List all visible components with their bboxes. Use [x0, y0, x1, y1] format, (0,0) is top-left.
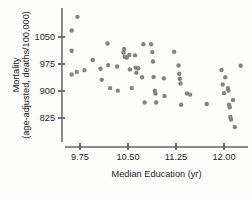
data-point: [115, 64, 119, 68]
data-point: [238, 64, 242, 68]
data-point: [75, 15, 79, 19]
data-point: [105, 41, 109, 45]
data-point: [154, 100, 158, 104]
data-point: [162, 94, 166, 98]
data-point: [153, 91, 157, 95]
data-point: [149, 42, 153, 46]
y-axis-title-line2: (age-adjusted, deaths/100,000): [21, 11, 31, 139]
y-axis-tick-label: 900: [40, 86, 55, 96]
x-axis-tick-label: 11.25: [165, 152, 187, 162]
data-point: [177, 72, 181, 76]
data-point: [151, 75, 155, 79]
data-point: [106, 63, 110, 67]
data-point: [140, 75, 144, 79]
y-axis-title-line1: Mortality: [11, 57, 21, 92]
data-point: [142, 100, 146, 104]
data-point: [69, 48, 73, 52]
y-axis-tick-label: 825: [40, 113, 55, 123]
data-point: [122, 47, 126, 51]
data-point: [229, 117, 233, 121]
data-point: [226, 88, 230, 92]
y-axis-tick-label: 975: [40, 59, 55, 69]
scatter-plot-figure: 10509759008259.7510.5011.2512.00Median E…: [0, 0, 252, 199]
x-axis-title: Median Education (yr): [112, 169, 202, 179]
data-point: [176, 63, 180, 67]
data-point: [133, 53, 137, 57]
data-point: [130, 86, 134, 90]
data-point: [100, 78, 104, 82]
data-point: [223, 75, 227, 79]
data-point: [205, 102, 209, 106]
data-point: [116, 88, 120, 92]
data-point: [172, 50, 176, 54]
data-point: [82, 68, 86, 72]
data-point: [69, 28, 73, 32]
data-point: [98, 66, 102, 70]
chart-canvas: 10509759008259.7510.5011.2512.00Median E…: [0, 0, 252, 199]
data-point: [222, 91, 226, 95]
data-point: [219, 68, 223, 72]
data-point: [162, 76, 166, 80]
data-point: [91, 58, 95, 62]
data-point: [75, 70, 79, 74]
x-axis-tick-label: 12.00: [213, 152, 236, 162]
data-point: [141, 42, 145, 46]
data-point: [178, 81, 182, 85]
data-point: [150, 50, 154, 54]
data-point: [136, 66, 140, 70]
data-point: [179, 102, 183, 106]
data-point: [228, 105, 232, 109]
data-point: [69, 72, 73, 76]
x-axis-tick-label: 10.50: [117, 152, 140, 162]
data-point: [233, 125, 237, 129]
data-point: [127, 53, 131, 57]
y-axis-tick-label: 1050: [35, 32, 55, 42]
data-point: [108, 86, 112, 90]
data-point: [151, 59, 155, 63]
data-point: [178, 77, 182, 81]
data-point: [231, 98, 235, 102]
data-point: [188, 92, 192, 96]
data-point: [221, 82, 225, 86]
x-axis-tick-label: 9.75: [71, 152, 89, 162]
data-point: [128, 67, 132, 71]
data-point: [134, 70, 138, 74]
